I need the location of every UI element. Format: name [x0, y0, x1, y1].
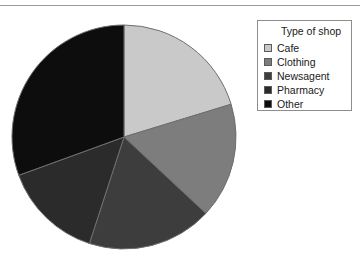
legend-swatch-other	[264, 100, 272, 108]
chart-legend: Type of shop Cafe Clothing Newsagent Pha…	[257, 20, 352, 111]
legend-item-newsagent[interactable]: Newsagent	[264, 69, 346, 83]
legend-item-pharmacy[interactable]: Pharmacy	[264, 83, 346, 97]
legend-item-cafe[interactable]: Cafe	[264, 41, 346, 55]
legend-label-clothing: Clothing	[277, 55, 316, 69]
legend-item-clothing[interactable]: Clothing	[264, 55, 346, 69]
legend-swatch-pharmacy	[264, 86, 272, 94]
legend-swatch-newsagent	[264, 72, 272, 80]
legend-item-other[interactable]: Other	[264, 97, 346, 111]
legend-swatch-cafe	[264, 44, 272, 52]
legend-label-cafe: Cafe	[277, 41, 299, 55]
legend-swatch-clothing	[264, 58, 272, 66]
legend-title: Type of shop	[264, 25, 346, 38]
legend-label-other: Other	[277, 97, 303, 111]
legend-label-newsagent: Newsagent	[277, 69, 330, 83]
pie-chart-figure: Type of shop Cafe Clothing Newsagent Pha…	[0, 0, 360, 254]
legend-label-pharmacy: Pharmacy	[277, 83, 324, 97]
